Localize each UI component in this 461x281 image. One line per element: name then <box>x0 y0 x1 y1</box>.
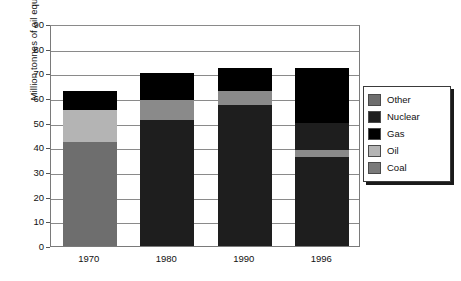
x-axis-tick-label: 1970 <box>54 253 124 264</box>
legend-swatch-icon <box>368 94 381 106</box>
bar-1990 <box>218 68 272 246</box>
legend-label: Other <box>387 95 411 105</box>
bar-segment-oil <box>295 150 349 157</box>
x-axis-tick-label: 1996 <box>286 253 356 264</box>
plot-area <box>50 25 360 247</box>
bar-1980 <box>140 73 194 246</box>
bar-segment-coal <box>63 142 117 246</box>
y-axis-tick <box>46 247 50 248</box>
legend-swatch-icon <box>368 111 381 123</box>
legend-item-nuclear: Nuclear <box>368 108 446 125</box>
legend-item-other: Other <box>368 91 446 108</box>
y-axis-tick-label: 30 <box>14 167 44 178</box>
bar-segment-oil <box>140 100 194 120</box>
bar-segment-nuclear <box>140 120 194 246</box>
bar-segment-gas <box>140 73 194 100</box>
legend-label: Nuclear <box>387 112 420 122</box>
bar-segment-nuclear <box>295 157 349 246</box>
y-axis-tick-label: 50 <box>14 118 44 129</box>
stacked-bar-chart: Million tonnes of oil equivalent 9080706… <box>0 0 461 281</box>
y-axis-tick-label: 0 <box>14 241 44 252</box>
legend-item-gas: Gas <box>368 125 446 142</box>
bar-segment-oil <box>63 110 117 142</box>
legend-item-coal: Coal <box>368 159 446 176</box>
legend-label: Oil <box>387 146 399 156</box>
bar-segment-oil <box>218 91 272 106</box>
bar-segment-nuclear2 <box>295 123 349 150</box>
bar-1970 <box>63 91 117 246</box>
legend-swatch-icon <box>368 145 381 157</box>
legend-swatch-icon <box>368 128 381 140</box>
gridline <box>51 51 359 52</box>
legend-item-oil: Oil <box>368 142 446 159</box>
x-axis-tick-label: 1990 <box>209 253 279 264</box>
bar-segment-nuclear <box>218 105 272 246</box>
y-axis-tick-label: 60 <box>14 93 44 104</box>
legend-swatch-icon <box>368 162 381 174</box>
y-axis-tick-label: 70 <box>14 68 44 79</box>
y-axis-tick-label: 10 <box>14 216 44 227</box>
x-axis-tick-label: 1980 <box>131 253 201 264</box>
bar-segment-gas <box>218 68 272 90</box>
y-axis-tick-label: 20 <box>14 192 44 203</box>
chart-legend: OtherNuclearGasOilCoal <box>363 86 451 182</box>
bar-segment-gas <box>63 91 117 111</box>
y-axis-tick-label: 80 <box>14 44 44 55</box>
bar-segment-gas <box>295 68 349 122</box>
bar-1996 <box>295 68 349 246</box>
legend-label: Gas <box>387 129 404 139</box>
y-axis-tick-label: 40 <box>14 142 44 153</box>
legend-label: Coal <box>387 163 407 173</box>
y-axis-tick-label: 90 <box>14 19 44 30</box>
